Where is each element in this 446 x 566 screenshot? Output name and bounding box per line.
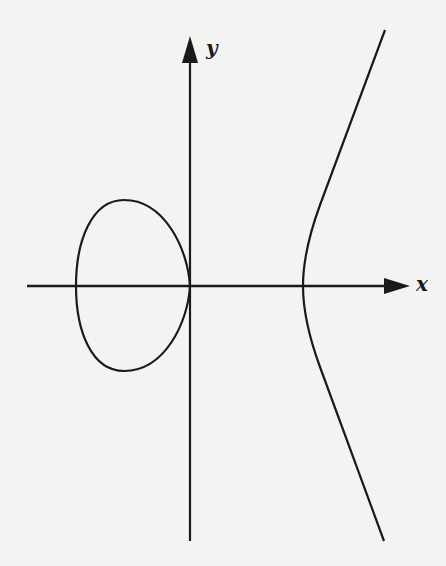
x-axis-label: x [416, 272, 428, 296]
plot-canvas [0, 0, 446, 566]
y-axis-label: y [206, 36, 218, 60]
y-axis-arrowhead [182, 36, 198, 63]
x-axis-arrowhead [384, 278, 410, 294]
elliptic-curve-figure: y x [0, 0, 446, 566]
